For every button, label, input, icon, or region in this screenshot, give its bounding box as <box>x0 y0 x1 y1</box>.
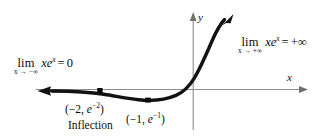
limit-right-value: +∞ <box>291 35 307 49</box>
minimum-label-open: (−1, <box>126 113 148 125</box>
limit-left-equals: = <box>58 56 65 70</box>
y-axis-arrow-icon <box>190 12 197 21</box>
inflection-label-exponent: −2 <box>92 101 100 110</box>
limit-right-function-exponent: x <box>276 34 279 43</box>
limit-left-expression: lim x → −∞ xex=0 <box>14 57 73 76</box>
inflection-caption: Inflection <box>68 120 113 132</box>
limit-left-value: 0 <box>67 56 73 70</box>
limit-right-equals: = <box>282 35 289 49</box>
inflection-point-marker <box>97 88 102 93</box>
minimum-point-marker <box>145 98 151 103</box>
minimum-label-exponent: −1 <box>153 111 161 120</box>
graph-figure: y x lim x → −∞ xex=0 lim x → +∞ xex=+∞ (… <box>0 0 314 137</box>
y-axis-label: y <box>198 12 203 23</box>
limit-left-subscript: x → −∞ <box>14 69 38 76</box>
limit-left-operator-group: lim x → −∞ <box>14 57 38 76</box>
x-axis-label: x <box>287 72 292 83</box>
limit-right-subscript: x → +∞ <box>238 48 262 55</box>
limit-left-body: xex=0 <box>41 57 73 70</box>
inflection-label-open: (−2, <box>65 103 87 115</box>
limit-left-function-exponent: x <box>52 55 55 64</box>
x-axis-arrow-icon <box>299 86 308 93</box>
inflection-point-label: (−2, e−2) <box>65 104 104 116</box>
limit-right-function-base: xe <box>265 35 276 49</box>
curve-path <box>52 20 225 101</box>
limit-right-expression: lim x → +∞ xex=+∞ <box>238 36 307 55</box>
limit-right-operator-group: lim x → +∞ <box>238 36 262 55</box>
curve-left-arrow-icon <box>38 86 52 95</box>
limit-right-body: xex=+∞ <box>265 36 306 49</box>
inflection-label-close: ) <box>100 103 104 115</box>
minimum-label-close: ) <box>161 113 165 125</box>
y-axis <box>190 12 197 130</box>
limit-left-function-base: xe <box>41 56 52 70</box>
minimum-point-label: (−1, e−1) <box>126 114 165 126</box>
